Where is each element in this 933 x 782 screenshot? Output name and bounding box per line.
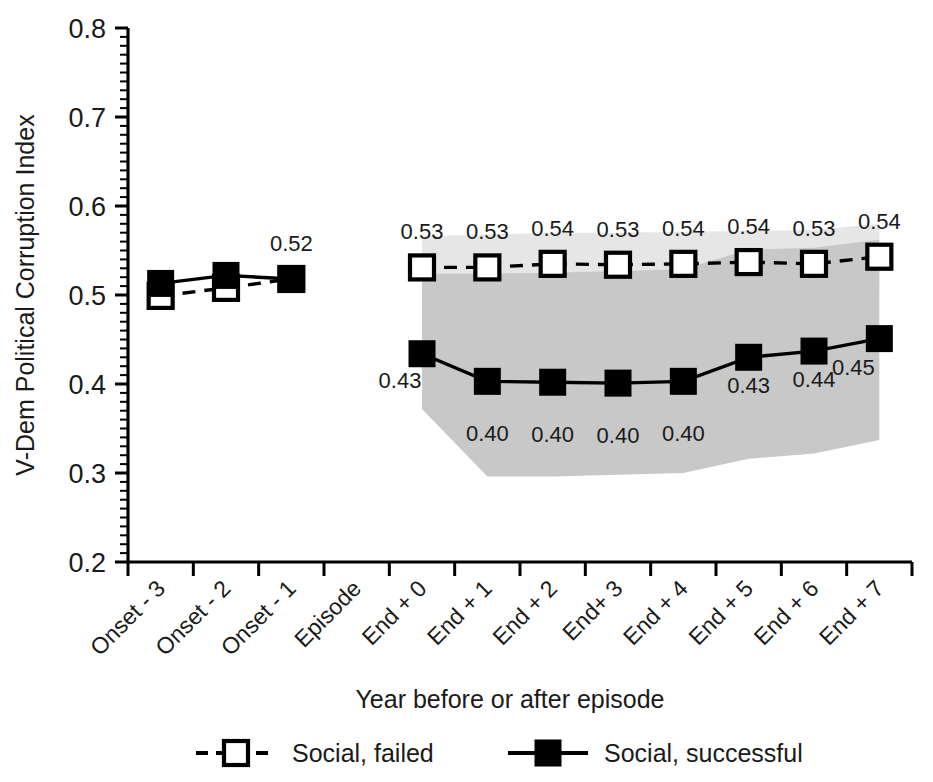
legend-item-social-successful[interactable]: Social, successful	[508, 739, 803, 767]
data-point-label: 0.40	[662, 421, 705, 446]
data-point-marker	[279, 267, 303, 291]
x-category-label: End + 7	[814, 575, 889, 650]
data-point-label: 0.53	[466, 219, 509, 244]
data-point-marker	[475, 369, 499, 393]
data-point-marker	[802, 339, 826, 363]
data-point-label: 0.53	[793, 216, 836, 241]
x-category-label: End + 4	[618, 575, 693, 650]
data-point-label: 0.53	[597, 217, 640, 242]
data-point-marker	[606, 371, 630, 395]
chart-container: 0.80.70.60.50.40.30.2 0.530.530.540.530.…	[0, 0, 933, 782]
x-category-label: End + 5	[683, 575, 758, 650]
data-point-marker	[671, 252, 695, 276]
data-point-marker	[214, 263, 238, 287]
data-point-label: 0.54	[662, 216, 705, 241]
data-point-label: 0.40	[597, 423, 640, 448]
data-point-label: 0.43	[379, 368, 422, 393]
data-point-marker	[541, 252, 565, 276]
legend-marker	[224, 741, 248, 765]
y-axis-title: V-Dem Political Corruption Index	[11, 114, 39, 476]
y-tick-label: 0.3	[68, 459, 106, 489]
x-category-label: End + 1	[422, 575, 497, 650]
v-dem-corruption-line-chart: 0.80.70.60.50.40.30.2 0.530.530.540.530.…	[0, 0, 933, 782]
legend-layer: Social, failedSocial, successful	[196, 739, 803, 767]
data-point-label: 0.40	[531, 422, 574, 447]
data-point-marker	[410, 342, 434, 366]
x-category-label: End + 2	[487, 575, 562, 650]
y-tick-label: 0.4	[68, 370, 106, 400]
y-tick-label: 0.6	[68, 192, 106, 222]
y-tick-label: 0.8	[68, 14, 106, 44]
data-point-marker	[802, 252, 826, 276]
data-point-label: 0.54	[858, 209, 901, 234]
data-point-marker	[410, 255, 434, 279]
data-point-marker	[737, 345, 761, 369]
x-category-label: Episode	[289, 575, 366, 652]
data-point-marker	[867, 245, 891, 269]
legend-label: Social, successful	[604, 739, 803, 767]
x-category-label: End + 6	[749, 575, 824, 650]
data-point-marker	[475, 255, 499, 279]
data-point-label: 0.53	[401, 219, 444, 244]
legend-marker	[536, 741, 560, 765]
category-label-layer: Onset - 3Onset - 2Onset - 1EpisodeEnd + …	[85, 575, 889, 660]
legend-label: Social, failed	[292, 739, 434, 767]
data-point-marker	[149, 271, 173, 295]
data-point-marker	[541, 370, 565, 394]
x-category-label: End+ 3	[557, 575, 627, 645]
data-point-label: 0.44	[793, 367, 836, 392]
data-point-label: 0.54	[531, 216, 574, 241]
data-point-label: 0.40	[466, 421, 509, 446]
y-tick-label: 0.5	[68, 281, 106, 311]
data-point-marker	[737, 250, 761, 274]
legend-item-social-failed[interactable]: Social, failed	[196, 739, 434, 767]
data-point-label: 0.52	[270, 231, 313, 256]
x-axis-title: Year before or after episode	[355, 685, 664, 713]
data-point-marker	[867, 327, 891, 351]
data-point-label: 0.43	[727, 373, 770, 398]
data-point-marker	[606, 253, 630, 277]
x-category-label: End + 0	[357, 575, 432, 650]
data-point-marker	[671, 369, 695, 393]
data-point-label: 0.54	[727, 214, 770, 239]
data-point-label: 0.45	[832, 355, 875, 380]
y-tick-label: 0.7	[68, 103, 106, 133]
y-tick-label: 0.2	[68, 548, 106, 578]
